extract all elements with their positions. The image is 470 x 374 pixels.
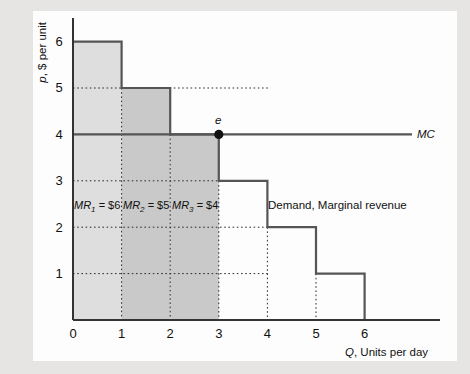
mr2-subscript: 2: [140, 205, 144, 214]
y-axis-title-symbol: p: [36, 76, 48, 82]
mr1-subscript: 1: [91, 205, 95, 214]
x-tick-2: 2: [163, 326, 177, 341]
y-tick-3: 3: [52, 173, 66, 188]
x-tick-3: 3: [212, 326, 226, 341]
x-axis-title-symbol: Q: [345, 346, 354, 358]
x-tick-0: 0: [66, 326, 80, 341]
x-axis-title: Q, Units per day: [345, 346, 428, 358]
mr3-subscript: 3: [189, 205, 193, 214]
equilibrium-point-label: e: [215, 114, 221, 126]
marginal-cost-label: MC: [417, 128, 435, 140]
mr1-symbol: MR: [74, 199, 91, 211]
mr2-value: = $5: [148, 199, 170, 211]
x-tick-5: 5: [309, 326, 323, 341]
mr2-symbol: MR: [123, 199, 140, 211]
x-tick-6: 6: [358, 326, 372, 341]
y-axis-title: p, $ per unit: [36, 22, 48, 83]
y-tick-6: 6: [52, 34, 66, 49]
y-tick-5: 5: [52, 80, 66, 95]
demand-curve-label: Demand, Marginal revenue: [268, 199, 407, 211]
x-tick-4: 4: [260, 326, 274, 341]
y-tick-2: 2: [52, 220, 66, 235]
x-tick-1: 1: [115, 326, 129, 341]
mr1-value: = $6: [99, 199, 121, 211]
mr2-annotation: MR2 = $5: [123, 199, 169, 214]
economics-figure: p, $ per unit 6 5 4 3 2 1 0 1 2 3 4 5 6 …: [0, 0, 470, 374]
mr3-symbol: MR: [172, 199, 189, 211]
x-axis-title-rest: , Units per day: [354, 346, 428, 358]
y-axis-title-rest: , $ per unit: [36, 22, 48, 76]
y-tick-1: 1: [52, 266, 66, 281]
y-tick-4: 4: [52, 127, 66, 142]
mr3-annotation: MR3 = $4: [172, 199, 218, 214]
mr3-value: = $4: [197, 199, 219, 211]
figure-panel: [33, 11, 457, 361]
mr1-annotation: MR1 = $6: [74, 199, 120, 214]
